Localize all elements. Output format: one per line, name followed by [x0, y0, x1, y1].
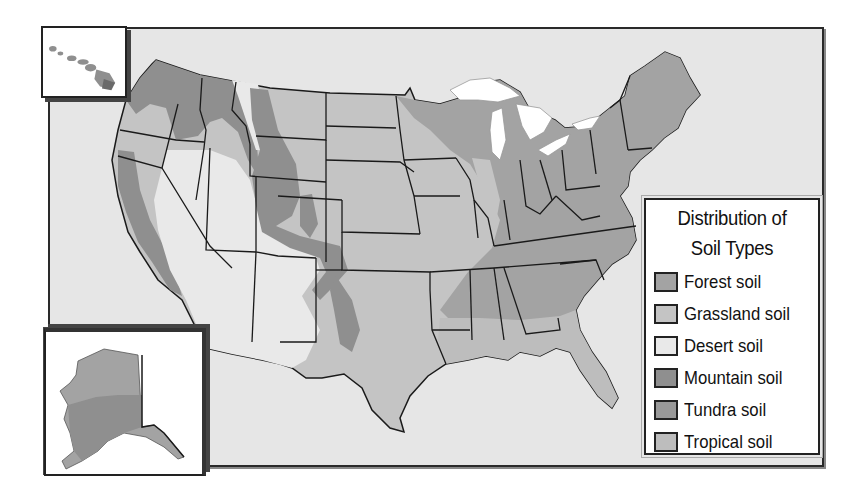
legend-item-mountain: Mountain soil: [654, 362, 818, 394]
hawaii-inset: [41, 26, 127, 98]
legend: Distribution of Soil Types Forest soil G…: [644, 198, 820, 455]
legend-label: Forest soil: [684, 271, 761, 293]
legend-item-grassland: Grassland soil: [654, 298, 818, 330]
legend-item-tropical: Tropical soil: [654, 426, 818, 458]
alaska-map: [46, 332, 202, 474]
tropical-region-southeast: [438, 310, 618, 408]
lake-superior: [450, 78, 520, 102]
legend-label: Grassland soil: [684, 303, 790, 325]
legend-item-forest: Forest soil: [654, 266, 818, 298]
swatch-grassland-icon: [654, 304, 678, 324]
swatch-forest-icon: [654, 272, 678, 292]
swatch-tropical-icon: [654, 432, 678, 452]
alaska-inset: [44, 328, 206, 476]
swatch-tundra-icon: [654, 400, 678, 420]
legend-item-tundra: Tundra soil: [654, 394, 818, 426]
swatch-mountain-icon: [654, 368, 678, 388]
legend-list: Forest soil Grassland soil Desert soil M…: [646, 266, 818, 458]
hawaii-map: [43, 28, 125, 96]
legend-item-desert: Desert soil: [654, 330, 818, 362]
legend-label: Desert soil: [684, 335, 763, 357]
legend-label: Tropical soil: [684, 431, 773, 453]
legend-title-line2: Soil Types: [656, 236, 807, 260]
legend-label: Tundra soil: [684, 399, 766, 421]
legend-title-line1: Distribution of: [656, 206, 807, 230]
swatch-desert-icon: [654, 336, 678, 356]
legend-label: Mountain soil: [684, 367, 783, 389]
